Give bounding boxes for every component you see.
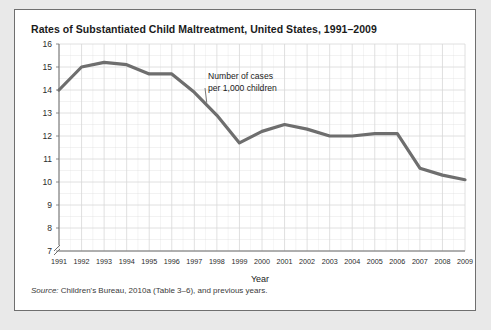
x-tick-2008: 2008 (434, 257, 450, 266)
axis-break-marks (54, 245, 60, 255)
x-tick-1991: 1991 (51, 257, 67, 266)
x-tick-2009: 2009 (457, 257, 473, 266)
y-tick-16: 16 (43, 39, 53, 49)
figure-card: Rates of Substantiated Child Maltreatmen… (14, 9, 476, 311)
x-tick-1996: 1996 (164, 257, 180, 266)
x-tick-2003: 2003 (322, 257, 338, 266)
y-tick-10: 10 (43, 177, 53, 187)
x-tick-1995: 1995 (141, 257, 157, 266)
x-tick-2006: 2006 (389, 257, 405, 266)
x-tick-1993: 1993 (96, 257, 112, 266)
annotation-label-line2: per 1,000 children (208, 83, 277, 93)
x-tick-1998: 1998 (209, 257, 225, 266)
source-text: Children's Bureau, 2010a (Table 3–6), an… (61, 286, 268, 295)
x-tick-2004: 2004 (344, 257, 360, 266)
x-tick-2000: 2000 (254, 257, 270, 266)
y-axis-tick-labels: 16151413121110987 (43, 39, 53, 256)
y-axis-break-symbol (54, 245, 60, 255)
x-tick-1999: 1999 (231, 257, 247, 266)
y-tick-9: 9 (47, 200, 52, 210)
chart-plot-area: 16151413121110987 1991199219931994199519… (15, 10, 477, 312)
y-tick-12: 12 (43, 131, 53, 141)
x-axis-tick-labels: 1991199219931994199519961997199819992000… (51, 257, 473, 266)
x-tick-2007: 2007 (412, 257, 428, 266)
x-tick-2005: 2005 (367, 257, 383, 266)
source-label: Source: (31, 286, 59, 295)
y-tick-13: 13 (43, 108, 53, 118)
annotation-label-line1: Number of cases (208, 71, 273, 81)
line-chart-svg: 16151413121110987 1991199219931994199519… (15, 10, 477, 312)
x-tick-1994: 1994 (119, 257, 135, 266)
x-axis-title: Year (251, 274, 269, 284)
y-tick-11: 11 (43, 154, 52, 164)
y-tick-15: 15 (43, 62, 53, 72)
x-tick-1997: 1997 (186, 257, 202, 266)
y-tick-7: 7 (47, 246, 52, 256)
source-note: Source: Children's Bureau, 2010a (Table … (31, 286, 267, 295)
x-tick-1992: 1992 (74, 257, 90, 266)
x-tick-2002: 2002 (299, 257, 315, 266)
y-tick-8: 8 (47, 223, 52, 233)
y-tick-14: 14 (43, 85, 53, 95)
x-tick-2001: 2001 (277, 257, 293, 266)
